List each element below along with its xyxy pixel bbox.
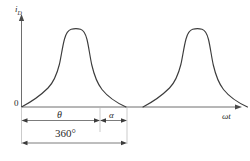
x-axis [22, 104, 243, 109]
dimension-alpha-arrow-left [100, 118, 106, 122]
waveform-figure: iD 0 ωt θ α 360° [0, 0, 250, 161]
waveform-canvas [0, 0, 250, 161]
x-axis-label: ωt [222, 112, 231, 121]
delay-angle-label: α [109, 111, 114, 120]
x-axis-arrowhead [235, 104, 242, 109]
dimension-theta-arrow-right [94, 118, 100, 122]
y-axis [19, 14, 24, 107]
conduction-angle-label: θ [57, 110, 62, 120]
y-axis-label: iD [15, 5, 22, 16]
dimension-alpha-arrow-right [121, 118, 127, 122]
dimension-period-arrow-left [22, 141, 28, 145]
dimension-period [22, 141, 128, 145]
origin-label: 0 [14, 99, 19, 108]
dimension-period-arrow-right [121, 141, 127, 145]
dimension-theta-arrow-left [22, 118, 28, 122]
period-label: 360° [55, 128, 76, 139]
y-axis-label-subscript: D [18, 10, 22, 16]
current-pulse-first [22, 29, 127, 107]
current-pulse-second [143, 29, 248, 107]
